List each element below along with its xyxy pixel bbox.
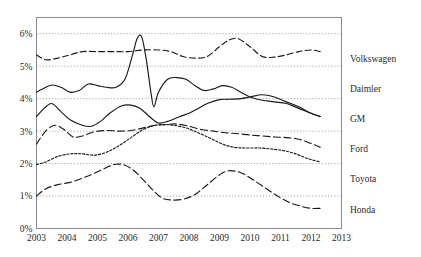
- x-tick-label: 2005: [88, 233, 107, 243]
- x-axis-tick-labels: 2003200420052006200720082009201020112012…: [27, 233, 351, 243]
- x-tick-label: 2011: [271, 233, 290, 243]
- y-tick-label: 4%: [20, 94, 33, 104]
- x-tick-label: 2006: [119, 233, 138, 243]
- line-chart: 0%1%2%3%4%5%6% 2003200420052006200720082…: [0, 0, 421, 257]
- series-line-toyota: [37, 125, 321, 165]
- legend-label-gm: GM: [350, 114, 366, 124]
- x-tick-label: 2009: [210, 233, 229, 243]
- series-line-gm: [37, 95, 321, 127]
- x-tick-label: 2013: [332, 233, 351, 243]
- x-tick-label: 2004: [58, 233, 77, 243]
- series-line-ford: [37, 124, 321, 147]
- chart-canvas: 0%1%2%3%4%5%6% 2003200420052006200720082…: [0, 0, 421, 257]
- legend: VolkswagenDaimlerGMFordToyotaHonda: [350, 54, 397, 215]
- x-tick-label: 2007: [149, 233, 168, 243]
- x-tick-label: 2012: [302, 233, 321, 243]
- series-line-volkswagen: [37, 38, 321, 60]
- legend-label-volkswagen: Volkswagen: [350, 54, 397, 64]
- legend-label-honda: Honda: [350, 205, 376, 215]
- legend-label-daimler: Daimler: [350, 84, 382, 94]
- y-tick-label: 3%: [20, 127, 33, 137]
- x-tick-label: 2008: [180, 233, 199, 243]
- y-tick-label: 2%: [20, 159, 33, 169]
- data-series: [37, 35, 321, 208]
- y-tick-label: 5%: [20, 62, 33, 72]
- legend-label-toyota: Toyota: [350, 174, 377, 184]
- y-tick-label: 6%: [20, 29, 33, 39]
- x-tick-label: 2003: [27, 233, 46, 243]
- x-tick-label: 2010: [241, 233, 260, 243]
- legend-label-ford: Ford: [350, 144, 368, 154]
- series-line-honda: [37, 164, 321, 208]
- y-axis-tick-labels: 0%1%2%3%4%5%6%: [20, 29, 33, 234]
- y-tick-label: 1%: [20, 191, 33, 201]
- series-line-daimler: [37, 35, 321, 116]
